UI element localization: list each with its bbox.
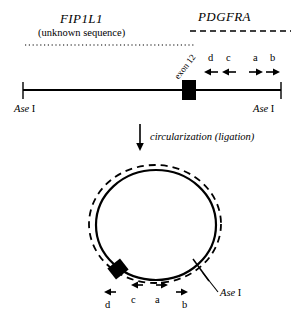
primer-arrow-b-circular [176, 288, 188, 295]
ase1-label-circular-roman: I [238, 287, 242, 298]
circular-map-graphics [0, 0, 303, 321]
ase1-leader-line [203, 273, 218, 292]
circle-dashed-outer-strand [89, 165, 221, 283]
primer-label-b-circular: b [182, 300, 187, 311]
primer-arrow-d-circular [104, 288, 116, 295]
primer-label-a-circular: a [155, 295, 160, 306]
ase1-label-circular: Ase I [220, 288, 241, 299]
fip1l1-pdgfra-circularization-figure: FIP1L1 (unknown sequence) PDGFRA [0, 0, 303, 321]
primer-label-c-circular: c [131, 295, 136, 306]
primer-label-d-circular: d [105, 300, 110, 311]
ase1-label-circular-italic: Ase [220, 287, 235, 298]
